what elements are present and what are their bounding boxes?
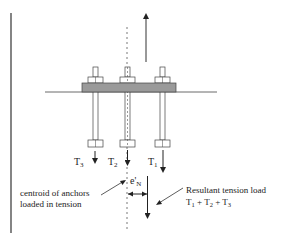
resultant-label-line2: T1 + T2 + T3: [186, 197, 231, 208]
anchor-bolt-center: [120, 67, 135, 147]
base-plate: [82, 83, 176, 92]
resultant-label-line1: Resultant tension load: [186, 185, 266, 195]
anchor-bolt-right: [155, 67, 170, 147]
centroid-label-line1: centroid of anchors: [20, 188, 90, 198]
anchor-tension-diagram: T3 T2 T1 e'N centroid of anchors loaded …: [0, 0, 287, 233]
eccentricity-dimension-arrow: [128, 192, 147, 197]
label-t2: T2: [108, 156, 118, 169]
resultant-leader: [156, 188, 183, 205]
centroid-label-line2: loaded in tension: [20, 199, 82, 209]
centroid-leader: [101, 180, 126, 195]
anchor-bolt-left: [88, 67, 103, 147]
label-t3: T3: [74, 156, 84, 169]
label-t1: T1: [148, 156, 158, 169]
label-eccentricity: e'N: [130, 175, 141, 188]
